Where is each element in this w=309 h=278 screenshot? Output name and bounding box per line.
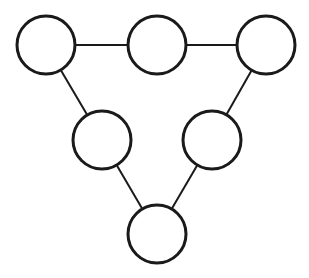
node-n2 <box>128 16 186 74</box>
node-n6 <box>128 205 186 263</box>
nodes-group <box>17 16 295 263</box>
node-n5 <box>183 111 241 169</box>
graph-diagram <box>0 0 309 278</box>
node-n4 <box>73 111 131 169</box>
node-n1 <box>17 16 75 74</box>
node-n3 <box>237 16 295 74</box>
